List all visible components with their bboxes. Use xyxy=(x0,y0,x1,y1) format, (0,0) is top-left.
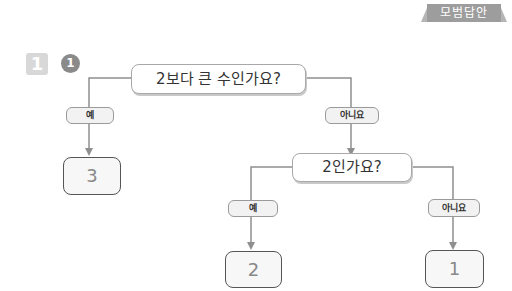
question-box-is-2: 2인가요? xyxy=(292,153,412,182)
label-yes: 예 xyxy=(66,107,114,124)
answer-box-3: 3 xyxy=(63,157,121,195)
question-box-greater-than-2: 2보다 큰 수인가요? xyxy=(131,64,306,94)
answer-box-2: 2 xyxy=(225,251,282,288)
label-yes-2: 예 xyxy=(228,200,278,217)
answer-box-1: 1 xyxy=(425,250,484,288)
label-no: 아니요 xyxy=(325,107,379,124)
label-no-2: 아니요 xyxy=(428,199,480,217)
connector-lines xyxy=(0,0,512,291)
